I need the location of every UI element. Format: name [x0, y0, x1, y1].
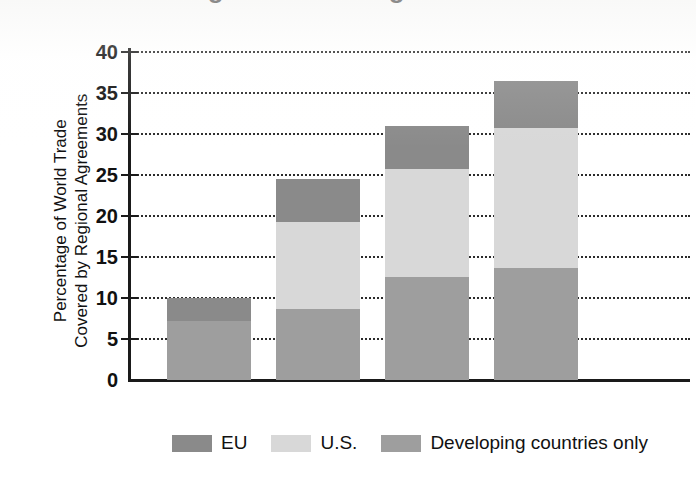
legend-label-u-s: U.S. [320, 432, 357, 454]
legend-item-eu[interactable]: EU [172, 432, 247, 454]
bar-segment-1996-developing-countries-only[interactable] [276, 309, 360, 380]
y-tick-label-0: 0 [76, 370, 118, 390]
bar-segment-1996-u-s[interactable] [276, 222, 360, 309]
legend-label-eu: EU [221, 432, 247, 454]
y-tick-label-25: 25 [76, 165, 118, 185]
bar-stack-1996[interactable] [276, 179, 360, 380]
legend-label-developing-countries-only: Developing countries only [430, 432, 648, 454]
legend-swatch-developing-countries-only [381, 435, 421, 452]
chart-title-text: Regional Trade Agreements [174, 0, 522, 5]
plot-area: 1990199620022011 [130, 52, 690, 380]
bar-stack-2002[interactable] [385, 126, 469, 380]
bar-segment-1990-developing-countries-only[interactable] [167, 321, 251, 380]
y-axis-tick-labels: 0510152025303540 [68, 0, 118, 493]
y-tick-label-30: 30 [76, 124, 118, 144]
legend-swatch-u-s [271, 435, 311, 452]
chart-figure: Regional Trade Agreements Percentage of … [0, 0, 696, 493]
bar-segment-1990-eu[interactable] [167, 298, 251, 321]
legend-item-u-s[interactable]: U.S. [271, 432, 357, 454]
y-tick-label-20: 20 [76, 206, 118, 226]
legend-item-developing-countries-only[interactable]: Developing countries only [381, 432, 648, 454]
y-tick-label-10: 10 [76, 288, 118, 308]
chart-legend: EUU.S.Developing countries only [130, 432, 690, 454]
y-tick-label-15: 15 [76, 247, 118, 267]
legend-swatch-eu [172, 435, 212, 452]
bar-segment-2011-u-s[interactable] [494, 128, 578, 268]
bar-segment-2011-developing-countries-only[interactable] [494, 268, 578, 380]
bar-segment-2011-eu[interactable] [494, 81, 578, 129]
bar-segment-2002-u-s[interactable] [385, 169, 469, 276]
y-tick-label-5: 5 [76, 329, 118, 349]
y-tick-label-40: 40 [76, 42, 118, 62]
bar-segment-2002-developing-countries-only[interactable] [385, 277, 469, 380]
bar-segment-1996-eu[interactable] [276, 179, 360, 222]
y-tick-label-35: 35 [76, 83, 118, 103]
bar-stack-1990[interactable] [167, 298, 251, 380]
bar-stack-2011[interactable] [494, 81, 578, 380]
bar-segment-2002-eu[interactable] [385, 126, 469, 169]
